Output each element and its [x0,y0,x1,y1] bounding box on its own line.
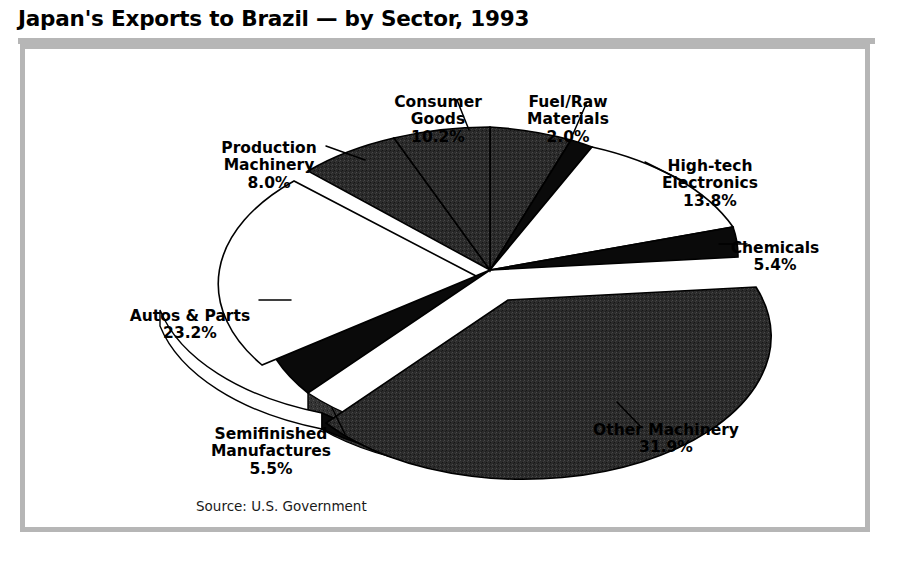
pie-label-production-machinery-name: Production Machinery [221,139,316,175]
pie-label-autos-parts: Autos & Parts 23.2% [104,290,276,360]
pie-label-hightech-electronics-name: High-tech Electronics [662,157,758,193]
pie-label-autos-parts-pct: 23.2% [104,325,276,343]
pie-label-autos-parts-name: Autos & Parts [130,307,250,325]
pie-label-semifinished-manufactures: Semifinished Manufactures 5.5% [176,408,366,496]
source-note: Source: U.S. Government [196,498,367,514]
chart-page: Japan's Exports to Brazil — by Sector, 1… [0,0,918,562]
page-title: Japan's Exports to Brazil — by Sector, 1… [18,6,529,31]
pie-label-other-machinery-name: Other Machinery [593,421,739,439]
pie-label-fuel-raw-materials: Fuel/Raw Materials 2.0% [508,76,628,164]
pie-label-chemicals-name: Chemicals [731,239,820,257]
pie-label-other-machinery: Other Machinery 31.9% [568,404,764,474]
pie-label-production-machinery: Production Machinery 8.0% [196,122,342,210]
pie-label-chemicals-pct: 5.4% [700,257,850,275]
pie-label-consumer-goods: Consumer Goods 10.2% [374,76,502,164]
pie-label-fuel-raw-materials-pct: 2.0% [508,129,628,147]
pie-label-other-machinery-pct: 31.9% [568,439,764,457]
pie-label-chemicals: Chemicals 5.4% [700,222,850,292]
pie-label-semifinished-manufactures-pct: 5.5% [176,461,366,479]
pie-label-consumer-goods-pct: 10.2% [374,129,502,147]
pie-label-consumer-goods-name: Consumer Goods [394,93,482,129]
pie-label-hightech-electronics: High-tech Electronics 13.8% [634,140,786,228]
pie-label-fuel-raw-materials-name: Fuel/Raw Materials [527,93,609,129]
title-block: Japan's Exports to Brazil — by Sector, 1… [18,4,898,44]
pie-label-production-machinery-pct: 8.0% [196,175,342,193]
pie-label-semifinished-manufactures-name: Semifinished Manufactures [211,425,331,461]
pie-label-hightech-electronics-pct: 13.8% [634,193,786,211]
